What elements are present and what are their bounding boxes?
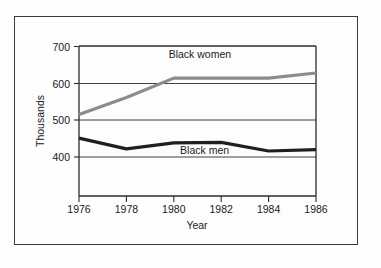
line-chart: 700 600 500 400 1976 1978 1980 1982 1984…	[0, 0, 381, 268]
x-tick-label-1978: 1978	[115, 203, 139, 215]
x-tick-labels: 1976 1978 1980 1982 1984 1986	[67, 203, 328, 215]
y-tickmarks	[74, 47, 79, 158]
x-axis-title: Year	[186, 219, 208, 231]
y-tick-label-700: 700	[52, 41, 70, 53]
series-label-black-men: Black men	[180, 144, 229, 156]
y-axis-title: Thousands	[34, 95, 46, 147]
y-tick-label-400: 400	[52, 151, 70, 163]
x-tick-label-1986: 1986	[304, 203, 328, 215]
plot-axes	[79, 46, 316, 196]
figure-root: 700 600 500 400 1976 1978 1980 1982 1984…	[0, 0, 381, 268]
y-tick-label-600: 600	[52, 78, 70, 90]
x-tick-label-1980: 1980	[162, 203, 186, 215]
x-tick-label-1976: 1976	[67, 203, 91, 215]
series-line-black-women	[79, 73, 316, 115]
x-tickmarks	[79, 196, 316, 202]
y-tick-label-500: 500	[52, 114, 70, 126]
x-tick-label-1982: 1982	[210, 203, 234, 215]
x-tick-label-1984: 1984	[257, 203, 281, 215]
series-label-black-women: Black women	[169, 48, 232, 60]
y-tick-labels: 700 600 500 400	[52, 41, 70, 164]
